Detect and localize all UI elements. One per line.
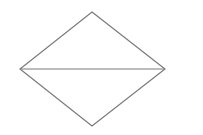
rhombus-diagram (0, 0, 203, 135)
diagram-canvas (0, 0, 203, 135)
